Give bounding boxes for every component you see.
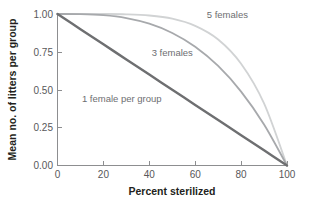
y-tick-label-075: 0.75: [34, 47, 54, 58]
x-tick-label-80: 80: [236, 169, 248, 180]
x-tick-label-100: 100: [279, 169, 296, 180]
x-tick-label-40: 40: [144, 169, 156, 180]
x-tick-label-20: 20: [98, 169, 110, 180]
x-tick-label-0: 0: [55, 169, 61, 180]
series-label-5-females: 5 females: [207, 9, 248, 20]
series-label-1-female: 1 female per group: [82, 93, 162, 104]
chart-svg: 1.00 0.75 0.50 0.25 0.00 0 20 40 60 80 1…: [0, 0, 311, 206]
x-axis-title: Percent sterilized: [129, 185, 216, 197]
y-tick-label-050: 0.50: [34, 85, 54, 96]
series-label-3-females: 3 females: [152, 47, 193, 58]
y-tick-label-000: 0.00: [34, 160, 54, 171]
chart-container: 1.00 0.75 0.50 0.25 0.00 0 20 40 60 80 1…: [0, 0, 311, 206]
y-axis-title: Mean no. of litters per group: [6, 19, 18, 161]
y-tick-label-1: 1.00: [34, 9, 54, 20]
x-tick-label-60: 60: [190, 169, 202, 180]
y-tick-label-025: 0.25: [34, 122, 54, 133]
